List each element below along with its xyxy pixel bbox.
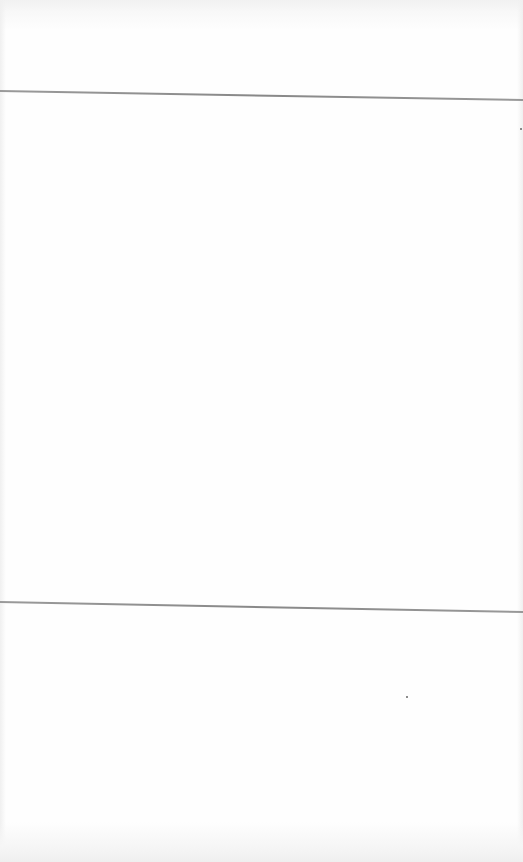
- left-edge-shadow: [0, 0, 6, 862]
- lower-horizontal-rule: [0, 601, 523, 613]
- speck-mark: [520, 128, 522, 130]
- blank-page: [0, 0, 523, 862]
- top-edge-noise: [0, 0, 523, 30]
- bottom-edge-noise: [0, 822, 523, 862]
- upper-horizontal-rule: [0, 90, 523, 101]
- speck-mark: [406, 696, 408, 698]
